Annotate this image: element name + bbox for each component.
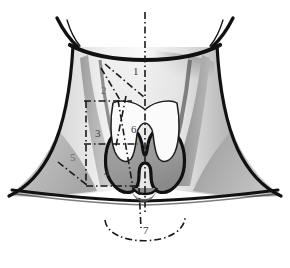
label-3: 3 (95, 128, 101, 139)
label-6: 6 (131, 124, 137, 135)
label-5: 5 (70, 152, 76, 163)
label-4: 4 (104, 167, 110, 178)
label-1: 1 (133, 66, 139, 77)
label-7: 7 (143, 225, 149, 236)
neck-anatomy-figure: 1 2 3 4 5 6 7 (0, 0, 290, 268)
label-2: 2 (101, 85, 107, 96)
